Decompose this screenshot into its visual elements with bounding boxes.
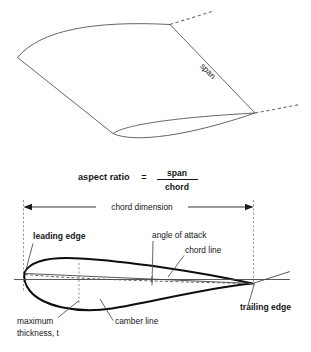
formula-numerator: span [167,168,187,178]
formula-lead-text: aspect ratio [78,172,130,182]
aerodynamics-diagram: span aspect ratio = span chord chord dim… [0,0,311,352]
airfoil-group: chord dimension [14,200,291,338]
camber-line-label: camber line [115,316,159,326]
angle-of-attack-label: angle of attack [152,230,207,240]
airfoil-outline [24,258,252,310]
chord-dimension-arrow-right [245,204,254,211]
leading-edge-label: leading edge [33,231,86,241]
maximum-thickness-label-line1: maximum [17,316,53,326]
tip-extension-dashed-upper [170,12,212,25]
tip-extension-dashed-lower [255,105,300,114]
formula-denominator: chord [165,182,189,192]
wing-root-edge [18,58,114,134]
wing-trailing-edge-curve [113,113,255,138]
wing-root-section-curve [113,113,255,134]
chord-dimension-label: chord dimension [111,202,173,212]
chord-line-extension [253,272,291,284]
chord-line-leader [168,256,184,278]
wing-planform-group: span [18,12,301,138]
chord-line [25,274,253,284]
aspect-ratio-formula-group: aspect ratio = span chord [78,168,198,192]
maximum-thickness-label-line2: thickness, t [17,328,60,338]
formula-equals-sign: = [141,172,146,182]
chord-dimension-arrow-left [24,204,33,211]
chord-line-label: chord line [185,245,222,255]
trailing-edge-label: trailing edge [240,302,291,312]
wing-leading-edge-curve [18,24,171,58]
span-label: span [198,61,218,81]
